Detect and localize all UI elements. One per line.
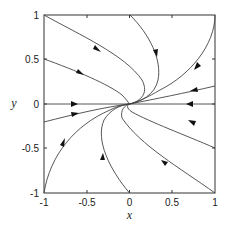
x-tick-label: 0 [127,197,133,208]
trajectory-l [122,104,215,193]
trajectory-f [101,104,129,193]
trajectory-a [44,15,145,104]
x-axis-label: x [126,208,133,222]
x-tick-labels: -1 -0.5 0 0.5 1 [40,197,219,208]
y-tick-label: 1 [33,10,39,21]
trajectory-k [128,104,215,148]
trajectory-e [44,104,130,193]
phase-portrait: -1 -0.5 0 0.5 1 1 0.5 0 -0.5 -1 x y [0,0,227,230]
x-tick-label: 1 [212,197,218,208]
trajectory-h [130,15,216,104]
x-tick-label: -1 [40,197,49,208]
y-tick-label: -0.5 [22,143,40,154]
direction-arrows [60,45,201,166]
y-tick-label: 0.5 [25,54,39,65]
arrow-icon [161,160,168,166]
trajectory-b [44,59,130,104]
arrow-icon [71,112,79,117]
y-tick-label: -1 [30,188,39,199]
y-tick-label: 0 [33,99,39,110]
y-tick-labels: 1 0.5 0 -0.5 -1 [22,10,40,199]
arrow-icon [186,101,193,107]
arrow-icon [71,101,78,107]
y-axis-label: y [10,96,17,110]
arrow-icon [100,153,105,160]
trajectory-i [130,86,216,104]
x-tick-label: -0.5 [78,197,96,208]
arrow-icon [93,45,101,52]
arrow-icon [76,69,84,75]
arrow-icon [188,120,196,126]
arrow-icon [153,49,158,57]
x-tick-label: 0.5 [165,197,179,208]
